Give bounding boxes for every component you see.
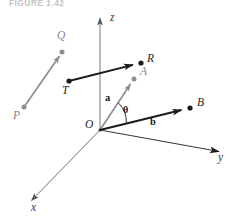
x-axis <box>32 130 101 201</box>
vector-TR-shaft <box>69 65 133 81</box>
point-label-O: O <box>85 119 93 131</box>
point-label-Q: Q <box>57 30 65 42</box>
y-axis-label: y <box>218 152 223 164</box>
point-label-T: T <box>62 85 68 97</box>
theta-angle-label: θ <box>123 105 128 115</box>
vector-diagram-canvas <box>0 0 234 224</box>
point-P-dot <box>22 105 27 110</box>
point-label-A: A <box>140 66 147 78</box>
vector-label-b: b <box>150 117 156 128</box>
point-B-dot <box>187 105 192 110</box>
x-axis-label: x <box>31 202 36 214</box>
point-label-B: B <box>197 97 204 109</box>
point-A-dot <box>132 77 137 82</box>
origin-dot <box>99 129 102 132</box>
figure-container: FIGURE 1.42 <box>0 0 234 224</box>
vector-PQ-group <box>22 50 65 110</box>
vector-PQ-shaft <box>24 56 60 107</box>
z-axis-label: z <box>110 12 114 24</box>
point-label-P: P <box>13 110 20 122</box>
point-T-dot <box>66 78 71 83</box>
y-axis <box>100 130 219 152</box>
point-Q-dot <box>60 50 65 55</box>
point-label-R: R <box>147 53 154 65</box>
vector-label-a: a <box>105 93 110 104</box>
